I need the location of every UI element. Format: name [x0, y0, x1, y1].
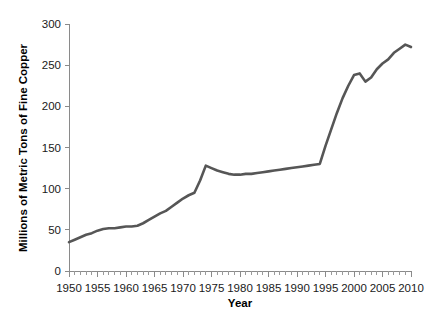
- x-tick-label: 2010: [398, 282, 424, 294]
- x-tick-label: 1955: [85, 282, 111, 294]
- x-tick-label: 1950: [56, 282, 82, 294]
- y-tick-label: 300: [42, 18, 61, 30]
- x-tick-label: 1985: [256, 282, 282, 294]
- x-tick-label: 1970: [170, 282, 196, 294]
- y-tick-label: 150: [42, 142, 61, 154]
- x-tick-label: 2000: [341, 282, 367, 294]
- chart-container: 050100150200250300 195019551960196519701…: [0, 0, 439, 328]
- x-axis-ticks: 1950195519601965197019751980198519901995…: [56, 271, 424, 294]
- data-series-line: [69, 45, 411, 243]
- y-axis-ticks: 050100150200250300: [42, 18, 69, 277]
- x-tick-label: 1965: [142, 282, 168, 294]
- y-tick-label: 250: [42, 59, 61, 71]
- y-tick-label: 50: [48, 224, 61, 236]
- x-tick-label: 1980: [227, 282, 253, 294]
- y-axis-title: Millions of Metric Tons of Fine Copper: [17, 43, 29, 252]
- y-tick-label: 100: [42, 183, 61, 195]
- x-tick-label: 1995: [313, 282, 339, 294]
- line-chart: 050100150200250300 195019551960196519701…: [0, 0, 439, 328]
- x-tick-label: 1960: [113, 282, 139, 294]
- x-axis-title: Year: [228, 297, 253, 309]
- x-tick-label: 1990: [284, 282, 310, 294]
- y-tick-label: 0: [55, 265, 61, 277]
- y-tick-label: 200: [42, 100, 61, 112]
- plot-area: 050100150200250300 195019551960196519701…: [42, 18, 424, 294]
- x-tick-label: 2005: [370, 282, 396, 294]
- x-tick-label: 1975: [199, 282, 225, 294]
